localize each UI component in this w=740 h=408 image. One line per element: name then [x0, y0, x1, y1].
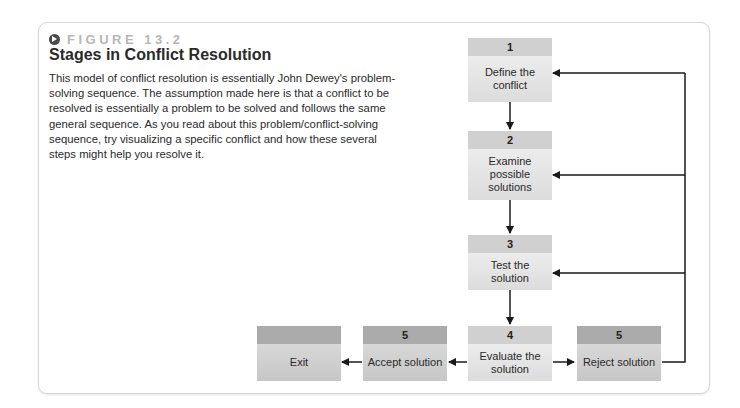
node-reject: 5 Reject solution [577, 326, 661, 381]
node-label: Test the solution [468, 253, 552, 290]
node-define: 1 Define the conflict [468, 38, 552, 102]
node-label: Examine possible solutions [468, 149, 552, 200]
node-label: Reject solution [577, 344, 661, 381]
node-label: Accept solution [363, 344, 447, 381]
node-number: 4 [468, 326, 552, 344]
node-accept: 5 Accept solution [363, 326, 447, 381]
node-number: 2 [468, 131, 552, 149]
node-number: 5 [363, 326, 447, 344]
node-number [257, 326, 341, 344]
node-exit: Exit [257, 326, 341, 381]
node-number: 5 [577, 326, 661, 344]
node-examine: 2 Examine possible solutions [468, 131, 552, 200]
feedback-loop-line [662, 73, 685, 362]
node-label: Define the conflict [468, 56, 552, 102]
node-label: Evaluate the solution [468, 344, 552, 381]
node-label: Exit [257, 344, 341, 381]
node-number: 3 [468, 235, 552, 253]
node-number: 1 [468, 38, 552, 56]
node-test: 3 Test the solution [468, 235, 552, 290]
node-evaluate: 4 Evaluate the solution [468, 326, 552, 381]
